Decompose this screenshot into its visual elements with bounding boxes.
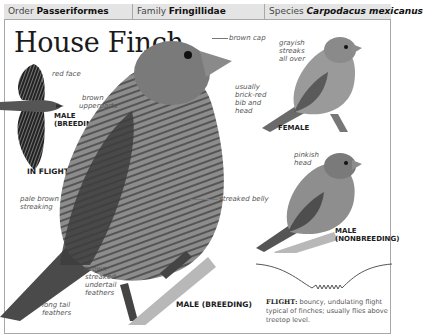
leader-brown-cap (212, 38, 228, 39)
label-bib-1: usually (235, 83, 260, 91)
label-grayish-streaks-2: streaks (279, 47, 305, 55)
label-undertail-1: brown (85, 265, 107, 273)
species-value: Carpodacus mexicanus (307, 6, 423, 16)
label-bib-4: head (235, 107, 252, 115)
label-grayish-streaks-3: all over (279, 55, 305, 63)
species-label: Species (269, 6, 304, 16)
family-cell: Family Fringillidae (133, 4, 265, 19)
label-pinkish-head-1: pinkish (294, 151, 319, 159)
caption-female: FEMALE (278, 124, 309, 133)
order-value: Passeriformes (36, 6, 108, 16)
label-pale-streaking-1: pale brown (20, 195, 59, 203)
order-cell: Order Passeriformes (4, 4, 133, 19)
label-pale-streaking-2: streaking (20, 203, 53, 211)
leader-streaked-belly (190, 199, 218, 200)
order-label: Order (8, 6, 34, 16)
species-cell: Species Carpodacus mexicanus (265, 4, 391, 19)
family-value: Fringillidae (169, 6, 226, 16)
female-bird-illustration (258, 28, 368, 133)
label-pinkish-head-2: head (294, 159, 311, 167)
label-tail-2: feathers (42, 309, 71, 317)
family-label: Family (137, 6, 166, 16)
label-undertail-4: feathers (85, 289, 114, 297)
label-brown-upperparts-2: upperparts (79, 102, 118, 110)
label-brown-upperparts-1: brown (82, 94, 104, 102)
label-grayish-streaks-1: grayish (279, 39, 305, 47)
label-undertail-2: streaked (85, 273, 116, 281)
caption-male-breeding: MALE (BREEDING) (176, 301, 252, 310)
flight-description: FLIGHT: bouncy, undulating flight typica… (266, 298, 396, 325)
taxonomy-header: Order Passeriformes Family Fringillidae … (4, 4, 391, 20)
label-undertail-3: undertail (85, 281, 116, 289)
caption-male-nonbreeding-2: (NONBREEDING) (335, 235, 399, 244)
label-tail-1: long tail (42, 301, 70, 309)
flight-path-diagram (254, 258, 394, 298)
male-breeding-bird-illustration (0, 25, 250, 325)
flight-heading: FLIGHT: (266, 298, 297, 306)
